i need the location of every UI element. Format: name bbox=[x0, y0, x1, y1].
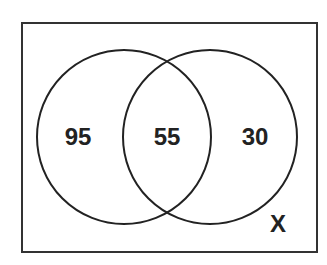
left-only-value: 95 bbox=[65, 123, 92, 150]
venn-diagram: 95 55 30 X bbox=[0, 0, 327, 265]
right-only-value: 30 bbox=[242, 123, 269, 150]
universe-label: X bbox=[270, 210, 286, 237]
intersection-value: 55 bbox=[154, 123, 181, 150]
